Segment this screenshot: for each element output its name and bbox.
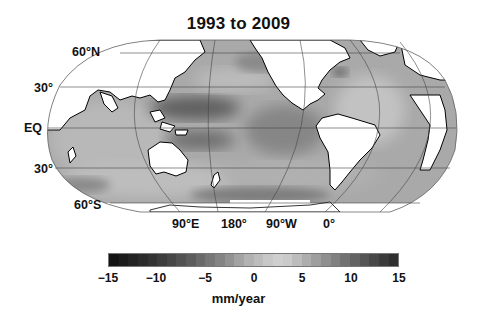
colorbar-segment bbox=[263, 254, 273, 266]
colorbar-segment bbox=[331, 254, 341, 266]
colorbar-segment bbox=[138, 254, 148, 266]
lat-label-30n: 30° bbox=[34, 81, 53, 95]
colorbar-segment bbox=[234, 254, 244, 266]
colorbar-tick: 0 bbox=[251, 271, 258, 285]
colorbar-unit-label: mm/year bbox=[0, 291, 477, 306]
colorbar-tick: −5 bbox=[198, 271, 212, 285]
colorbar-segment bbox=[311, 254, 321, 266]
colorbar-segment bbox=[205, 254, 215, 266]
colorbar-tick: −15 bbox=[98, 271, 118, 285]
colorbar-segment bbox=[128, 254, 138, 266]
colorbar-segment bbox=[225, 254, 235, 266]
colorbar-segment bbox=[369, 254, 379, 266]
colorbar-tick: 5 bbox=[299, 271, 306, 285]
colorbar-segment bbox=[215, 254, 225, 266]
colorbar-segment bbox=[109, 254, 119, 266]
colorbar-segment bbox=[157, 254, 167, 266]
colorbar-segment bbox=[321, 254, 331, 266]
colorbar-segment bbox=[379, 254, 389, 266]
lat-label-eq: EQ bbox=[24, 121, 42, 135]
colorbar-tick: −10 bbox=[146, 271, 166, 285]
lon-label-90e: 90°E bbox=[172, 217, 199, 231]
lon-label-90w: 90°W bbox=[266, 217, 297, 231]
lat-label-60n: 60°N bbox=[72, 45, 100, 59]
colorbar-segment bbox=[360, 254, 370, 266]
colorbar-segment bbox=[244, 254, 254, 266]
colorbar-tick: 10 bbox=[344, 271, 357, 285]
colorbar-segment bbox=[283, 254, 293, 266]
colorbar-segment bbox=[350, 254, 360, 266]
lat-label-60s: 60°S bbox=[74, 198, 101, 212]
colorbar-segment bbox=[273, 254, 283, 266]
colorbar-segment bbox=[196, 254, 206, 266]
colorbar-segment bbox=[389, 254, 399, 266]
colorbar-tick: 15 bbox=[392, 271, 405, 285]
lon-label-180: 180° bbox=[221, 217, 247, 231]
colorbar-segment bbox=[186, 254, 196, 266]
colorbar-segment bbox=[340, 254, 350, 266]
colorbar-segment bbox=[176, 254, 186, 266]
colorbar-segment bbox=[254, 254, 264, 266]
colorbar-segment bbox=[148, 254, 158, 266]
colorbar-segment bbox=[302, 254, 312, 266]
colorbar-segment bbox=[167, 254, 177, 266]
colorbar-segment bbox=[292, 254, 302, 266]
colorbar bbox=[108, 253, 399, 267]
lon-label-0: 0° bbox=[323, 217, 335, 231]
colorbar-segment bbox=[119, 254, 129, 266]
lat-label-30s: 30° bbox=[34, 162, 53, 176]
